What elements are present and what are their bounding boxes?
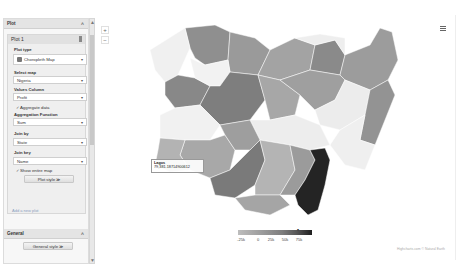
plot-type-select[interactable]: Choropleth Map ▾ [13, 54, 87, 65]
map-region[interactable] [235, 195, 290, 215]
aggregate-data-checkbox[interactable]: ✓Aggregate data [16, 105, 49, 110]
chevron-down-icon: ▾ [81, 158, 83, 165]
general-section-title: General [7, 231, 24, 236]
join-key-select[interactable]: Name ▾ [13, 157, 87, 165]
checkmark-icon: ✓ [16, 168, 19, 173]
scrollbar-thumb[interactable] [90, 35, 94, 145]
tooltip-value: 79,381.18714900612 [154, 165, 201, 169]
map-tooltip: Lagos 79,381.18714900612 [151, 159, 204, 173]
legend-tick: 50k [278, 237, 292, 242]
plot-type-value: Choropleth Map [24, 57, 55, 62]
aggregation-function-value: Sum [17, 120, 26, 125]
show-entire-map-label: Show entire map [20, 168, 52, 173]
values-column-select[interactable]: Profit ▾ [13, 93, 87, 101]
collapse-icon[interactable]: ^ [81, 229, 84, 239]
hamburger-menu-icon[interactable] [440, 26, 446, 31]
values-column-value: Profit [17, 95, 27, 100]
legend-marker-icon: ▾ [297, 227, 299, 232]
chevron-down-icon: ▾ [81, 139, 83, 146]
general-section-header[interactable]: General ^ [4, 229, 88, 239]
credits-link[interactable]: Highcharts.com © Natural Earth [397, 247, 445, 251]
plot-card-title: Plot 1 [11, 36, 24, 42]
sidebar-scrollbar[interactable]: ▲ ▼ [89, 18, 95, 264]
settings-sidebar: Plot ^ Plot 1 Plot type Choropleth Map ▾… [3, 18, 89, 264]
zoom-out-button[interactable]: − [101, 36, 109, 44]
legend-tick: -25k [234, 237, 248, 242]
general-style-button[interactable]: General style ≫ [23, 242, 73, 250]
show-entire-map-checkbox[interactable]: ✓Show entire map [16, 168, 52, 173]
divider [455, 15, 456, 260]
trash-icon[interactable] [79, 36, 82, 42]
join-key-label: Join key [14, 150, 31, 155]
join-by-select[interactable]: State ▾ [13, 138, 87, 146]
aggregation-function-select[interactable]: Sum ▾ [13, 118, 87, 126]
choropleth-map[interactable] [130, 20, 420, 225]
plot-card-header: Plot 1 [8, 35, 85, 44]
plot-section-header[interactable]: Plot ^ [4, 19, 88, 29]
plot-type-label: Plot type [14, 47, 32, 52]
color-legend [238, 230, 312, 235]
plot-section-title: Plot [7, 21, 16, 26]
legend-tick: 75k [292, 237, 306, 242]
join-key-value: Name [17, 159, 28, 164]
zoom-in-button[interactable]: + [101, 26, 109, 34]
chevron-down-icon: ▾ [81, 119, 83, 126]
map-icon [17, 57, 22, 62]
aggregation-function-label: Aggregation Function [14, 112, 58, 117]
checkmark-icon: ✓ [16, 105, 19, 110]
map-region[interactable] [340, 28, 398, 90]
join-by-label: Join by [14, 131, 29, 136]
chevron-down-icon: ▾ [81, 55, 83, 65]
plot-card: Plot 1 Plot type Choropleth Map ▾ Select… [7, 34, 86, 214]
values-column-label: Values Column [14, 87, 44, 92]
legend-tick: 0 [251, 237, 265, 242]
select-map-label: Select map [14, 70, 36, 75]
chevron-down-icon: ▾ [81, 94, 83, 101]
join-by-value: State [17, 140, 27, 145]
aggregate-data-label: Aggregate data [20, 105, 49, 110]
add-new-plot-link[interactable]: Add a new plot [12, 208, 38, 213]
map-region[interactable] [150, 28, 190, 82]
collapse-icon[interactable]: ^ [81, 19, 84, 29]
select-map-value: Nigeria [17, 78, 31, 83]
chevron-down-icon: ▾ [81, 77, 83, 84]
plot-style-button[interactable]: Plot style ≫ [24, 175, 74, 183]
scroll-down-icon[interactable]: ▼ [90, 257, 94, 263]
legend-tick: 25k [264, 237, 278, 242]
app-root: Plot ^ Plot 1 Plot type Choropleth Map ▾… [0, 0, 470, 267]
scroll-up-icon[interactable]: ▲ [90, 19, 94, 25]
select-map-select[interactable]: Nigeria ▾ [13, 76, 87, 84]
